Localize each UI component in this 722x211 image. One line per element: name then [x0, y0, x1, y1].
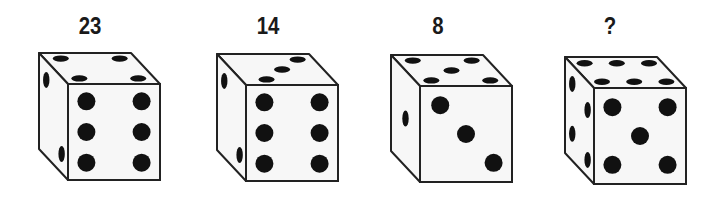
dice-puzzle: 23 14 8 ?: [0, 0, 722, 211]
pip: [77, 154, 95, 172]
pip: [402, 111, 408, 127]
pip: [77, 123, 95, 141]
pip: [311, 93, 329, 111]
pip: [659, 156, 677, 174]
pip: [274, 66, 290, 72]
pip: [569, 126, 575, 142]
pip: [405, 57, 421, 63]
pip: [255, 155, 273, 173]
pip: [255, 124, 273, 142]
pip: [58, 146, 64, 162]
die-3: [391, 55, 512, 182]
pip: [603, 98, 621, 116]
pip: [577, 60, 593, 66]
pip: [626, 79, 642, 85]
pip: [133, 92, 151, 110]
pip: [112, 55, 128, 61]
pip: [133, 154, 151, 172]
pip: [53, 55, 69, 61]
pip: [311, 155, 329, 173]
pip: [43, 72, 49, 88]
die-4: [565, 57, 686, 184]
pip: [569, 76, 575, 92]
pip: [594, 79, 610, 85]
pip: [641, 60, 657, 66]
die-1: [39, 53, 160, 180]
pip: [259, 76, 275, 82]
pip: [130, 75, 146, 81]
pip: [584, 152, 590, 168]
pip: [485, 154, 503, 172]
pip: [290, 56, 306, 62]
pip: [431, 96, 449, 114]
pip: [659, 98, 677, 116]
pip: [584, 102, 590, 118]
pip: [311, 124, 329, 142]
pip: [464, 57, 480, 63]
pip: [221, 73, 227, 89]
die-2: [217, 54, 338, 181]
pip: [236, 147, 242, 163]
pip: [603, 156, 621, 174]
pip: [423, 77, 439, 83]
pip: [457, 125, 475, 143]
pip: [133, 123, 151, 141]
pip: [609, 60, 625, 66]
pip: [77, 92, 95, 110]
pip: [482, 77, 498, 83]
pip: [444, 67, 460, 73]
dice-drawing: [0, 0, 722, 211]
pip: [631, 127, 649, 145]
pip: [71, 75, 87, 81]
pip: [255, 93, 273, 111]
pip: [658, 79, 674, 85]
